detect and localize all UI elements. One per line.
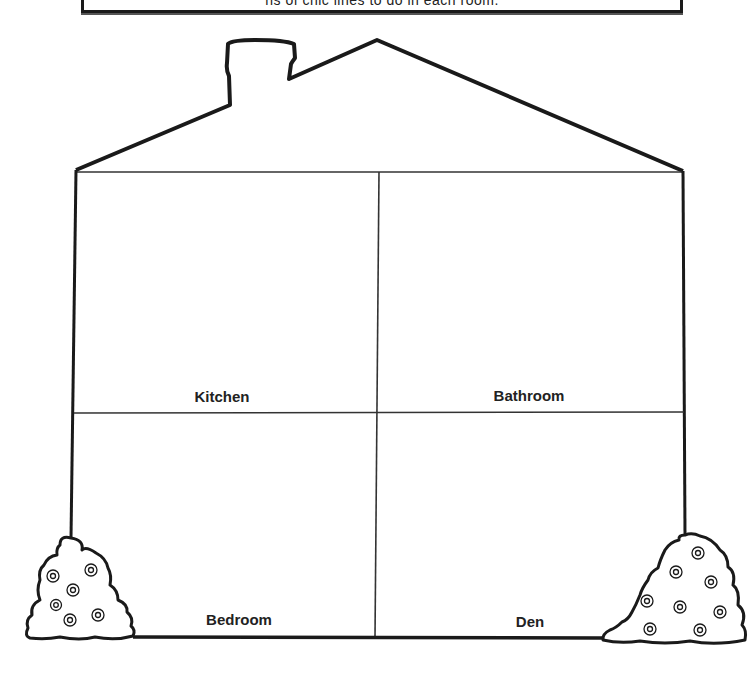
right-wall — [683, 171, 685, 535]
house-drawing — [0, 0, 751, 683]
floor-divider — [74, 412, 684, 413]
room-label-bathroom: Bathroom — [494, 387, 565, 404]
room-label-den: Den — [516, 613, 544, 630]
floor-line — [133, 637, 604, 638]
room-divider — [375, 172, 379, 638]
right-bush — [603, 534, 746, 644]
left-bush — [26, 537, 134, 639]
room-label-kitchen: Kitchen — [194, 388, 249, 405]
roof-outline — [76, 40, 683, 171]
room-label-bedroom: Bedroom — [206, 611, 272, 628]
left-wall — [71, 170, 76, 538]
